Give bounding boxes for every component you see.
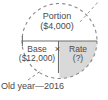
portion-value: ($4,000) [26, 22, 88, 32]
multiplication-operator-icon: × [53, 44, 62, 54]
percentage-circle-diagram: Portion ($4,000) Base ($12,000) Rate (?)… [0, 0, 108, 100]
portion-title: Portion [43, 11, 72, 21]
portion-label: Portion ($4,000) [26, 12, 88, 31]
old-year-caption: Old year—2016 [1, 81, 64, 91]
caption-leader-line [28, 70, 42, 80]
base-value: ($12,000) [15, 54, 59, 63]
rate-value: (?) [62, 54, 94, 63]
rate-label: Rate (?) [62, 45, 94, 63]
